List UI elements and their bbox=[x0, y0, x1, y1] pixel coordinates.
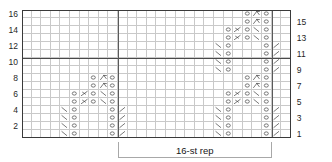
chart-cell[interactable] bbox=[185, 18, 195, 26]
chart-cell[interactable] bbox=[70, 106, 80, 114]
chart-cell[interactable] bbox=[214, 130, 224, 138]
chart-cell[interactable] bbox=[51, 106, 61, 114]
chart-cell[interactable] bbox=[108, 26, 118, 34]
chart-cell[interactable] bbox=[147, 10, 157, 18]
chart-cell[interactable] bbox=[195, 106, 205, 114]
chart-cell[interactable] bbox=[32, 42, 42, 50]
chart-cell[interactable] bbox=[156, 122, 166, 130]
chart-cell[interactable] bbox=[166, 98, 176, 106]
chart-cell[interactable] bbox=[224, 90, 234, 98]
chart-cell[interactable] bbox=[60, 58, 70, 66]
chart-cell[interactable] bbox=[204, 98, 214, 106]
chart-cell[interactable] bbox=[262, 66, 272, 74]
chart-cell[interactable] bbox=[252, 106, 262, 114]
chart-cell[interactable] bbox=[195, 114, 205, 122]
chart-cell[interactable] bbox=[214, 58, 224, 66]
chart-cell[interactable] bbox=[156, 26, 166, 34]
chart-cell[interactable] bbox=[262, 130, 272, 138]
chart-cell[interactable] bbox=[99, 74, 109, 82]
chart-cell[interactable] bbox=[185, 66, 195, 74]
chart-cell[interactable] bbox=[204, 90, 214, 98]
chart-cell[interactable] bbox=[22, 66, 32, 74]
chart-cell[interactable] bbox=[41, 122, 51, 130]
chart-cell[interactable] bbox=[204, 130, 214, 138]
chart-cell[interactable] bbox=[224, 106, 234, 114]
chart-cell[interactable] bbox=[32, 90, 42, 98]
chart-cell[interactable] bbox=[166, 10, 176, 18]
chart-cell[interactable] bbox=[156, 90, 166, 98]
chart-cell[interactable] bbox=[80, 18, 90, 26]
chart-cell[interactable] bbox=[281, 122, 291, 130]
chart-cell[interactable] bbox=[252, 42, 262, 50]
chart-cell[interactable] bbox=[118, 42, 128, 50]
chart-cell[interactable] bbox=[195, 34, 205, 42]
chart-cell[interactable] bbox=[176, 82, 186, 90]
chart-cell[interactable] bbox=[176, 50, 186, 58]
chart-cell[interactable] bbox=[89, 58, 99, 66]
chart-cell[interactable] bbox=[262, 90, 272, 98]
chart-cell[interactable] bbox=[185, 26, 195, 34]
chart-cell[interactable] bbox=[176, 98, 186, 106]
chart-cell[interactable] bbox=[51, 114, 61, 122]
chart-cell[interactable] bbox=[99, 106, 109, 114]
chart-cell[interactable] bbox=[166, 122, 176, 130]
chart-cell[interactable] bbox=[243, 98, 253, 106]
chart-cell[interactable] bbox=[89, 26, 99, 34]
chart-cell[interactable] bbox=[262, 58, 272, 66]
chart-cell[interactable] bbox=[32, 26, 42, 34]
chart-cell[interactable] bbox=[252, 130, 262, 138]
chart-cell[interactable] bbox=[262, 82, 272, 90]
chart-cell[interactable] bbox=[214, 26, 224, 34]
chart-cell[interactable] bbox=[41, 58, 51, 66]
chart-cell[interactable] bbox=[243, 34, 253, 42]
chart-cell[interactable] bbox=[272, 66, 282, 74]
chart-cell[interactable] bbox=[272, 90, 282, 98]
chart-cell[interactable] bbox=[204, 106, 214, 114]
chart-cell[interactable] bbox=[243, 82, 253, 90]
chart-cell[interactable] bbox=[233, 74, 243, 82]
chart-cell[interactable] bbox=[70, 82, 80, 90]
chart-cell[interactable] bbox=[252, 82, 262, 90]
chart-cell[interactable] bbox=[99, 10, 109, 18]
chart-cell[interactable] bbox=[99, 122, 109, 130]
chart-cell[interactable] bbox=[137, 18, 147, 26]
chart-cell[interactable] bbox=[147, 58, 157, 66]
chart-cell[interactable] bbox=[51, 10, 61, 18]
chart-cell[interactable] bbox=[233, 26, 243, 34]
chart-cell[interactable] bbox=[156, 106, 166, 114]
chart-cell[interactable] bbox=[118, 90, 128, 98]
chart-cell[interactable] bbox=[243, 74, 253, 82]
chart-cell[interactable] bbox=[195, 18, 205, 26]
chart-cell[interactable] bbox=[233, 10, 243, 18]
chart-cell[interactable] bbox=[147, 18, 157, 26]
chart-cell[interactable] bbox=[214, 10, 224, 18]
chart-cell[interactable] bbox=[80, 58, 90, 66]
chart-cell[interactable] bbox=[108, 82, 118, 90]
chart-cell[interactable] bbox=[128, 18, 138, 26]
chart-cell[interactable] bbox=[89, 122, 99, 130]
chart-cell[interactable] bbox=[262, 122, 272, 130]
chart-cell[interactable] bbox=[80, 26, 90, 34]
chart-cell[interactable] bbox=[233, 90, 243, 98]
chart-cell[interactable] bbox=[118, 114, 128, 122]
chart-cell[interactable] bbox=[89, 82, 99, 90]
chart-cell[interactable] bbox=[137, 26, 147, 34]
chart-cell[interactable] bbox=[224, 82, 234, 90]
chart-cell[interactable] bbox=[214, 50, 224, 58]
chart-cell[interactable] bbox=[99, 42, 109, 50]
chart-cell[interactable] bbox=[137, 82, 147, 90]
chart-cell[interactable] bbox=[118, 74, 128, 82]
chart-cell[interactable] bbox=[147, 90, 157, 98]
chart-cell[interactable] bbox=[128, 58, 138, 66]
chart-cell[interactable] bbox=[224, 66, 234, 74]
chart-cell[interactable] bbox=[89, 114, 99, 122]
chart-cell[interactable] bbox=[176, 18, 186, 26]
chart-cell[interactable] bbox=[41, 106, 51, 114]
chart-cell[interactable] bbox=[70, 90, 80, 98]
chart-cell[interactable] bbox=[41, 130, 51, 138]
chart-cell[interactable] bbox=[176, 90, 186, 98]
chart-cell[interactable] bbox=[176, 66, 186, 74]
chart-cell[interactable] bbox=[118, 82, 128, 90]
chart-cell[interactable] bbox=[204, 50, 214, 58]
chart-cell[interactable] bbox=[108, 50, 118, 58]
